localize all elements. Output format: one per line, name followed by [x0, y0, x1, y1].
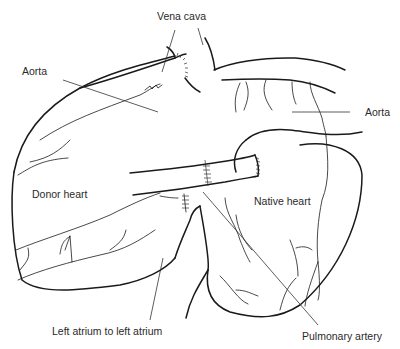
leader-vena-cava-b — [198, 28, 203, 45]
heart-transplant-illustration — [0, 0, 400, 349]
label-left-atrium: Left atrium to left atrium — [52, 326, 162, 337]
label-aorta-donor: Aorta — [22, 66, 47, 77]
leader-aorta-left — [63, 80, 158, 112]
leader-pulmonary-artery — [203, 192, 318, 325]
label-pulmonary-artery: Pulmonary artery — [302, 331, 382, 342]
leader-left-atrium — [150, 258, 163, 320]
leader-vena-cava-a — [162, 30, 175, 72]
label-donor-heart: Donor heart — [32, 189, 87, 200]
label-vena-cava: Vena cava — [157, 11, 206, 22]
donor-aorta — [40, 58, 175, 140]
vena-cava — [145, 47, 200, 92]
label-native-heart: Native heart — [254, 196, 311, 207]
pulmonary-artery-graft — [130, 155, 260, 195]
leader-lines — [63, 28, 350, 325]
native-aorta — [205, 38, 362, 140]
label-aorta-native: Aorta — [365, 107, 390, 118]
donor-heart-outline — [12, 56, 175, 290]
left-atrium-anastomosis — [160, 194, 200, 258]
